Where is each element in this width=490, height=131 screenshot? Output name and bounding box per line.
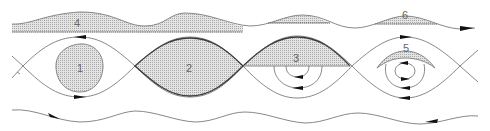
region-5-inner-loop	[395, 63, 415, 79]
region-4-label: 4	[74, 17, 80, 29]
region-3: 3	[243, 37, 350, 90]
cell1-bottom-arrow-icon	[74, 95, 86, 99]
region-5-inner-top-arrow-icon	[399, 61, 408, 65]
region-2-label: 2	[186, 62, 192, 74]
region-5-label: 5	[403, 42, 409, 54]
region-1-label: 1	[77, 62, 83, 74]
cell4-top-arrow-icon	[400, 35, 412, 39]
region-5: 5	[377, 42, 435, 90]
region-1: 1	[56, 44, 103, 92]
streamline-diagram: 1 2 3 5 4 6	[0, 0, 490, 131]
region-3-label: 3	[293, 52, 299, 64]
cell4-bottom-arrow-icon	[398, 96, 410, 100]
region-2: 2	[135, 38, 243, 96]
region-3-inner-arrow-icon	[294, 75, 303, 79]
bottom-wave-group	[12, 110, 478, 124]
cell1-top-arrow-icon	[74, 35, 86, 39]
left-tick	[17, 72, 20, 74]
region-5-inner-bottom-arrow-icon	[401, 77, 410, 81]
region-3-middle-arrow-icon	[292, 86, 303, 90]
region-shade-crest-a	[268, 15, 330, 23]
bottom-wave-right-arrow-icon	[425, 119, 438, 123]
region-3-inner-loop	[286, 66, 309, 77]
region-5-middle-arrow-icon	[400, 86, 410, 90]
region-6-label: 6	[402, 9, 408, 21]
bottom-wave-line	[12, 110, 478, 124]
region-5-middle-loop	[385, 64, 424, 88]
